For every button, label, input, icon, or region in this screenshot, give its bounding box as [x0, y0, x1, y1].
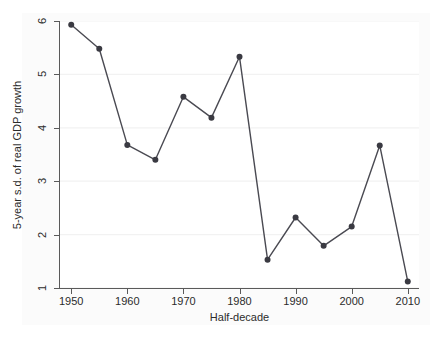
x-tick-label: 1970 — [158, 295, 208, 307]
y-tick-label: 6 — [34, 15, 50, 27]
data-point-marker[interactable] — [349, 224, 355, 230]
y-tick-label: 1 — [34, 282, 50, 294]
x-tick-label: 2010 — [383, 295, 433, 307]
data-point-marker[interactable] — [180, 94, 186, 100]
x-axis-title: Half-decade — [60, 311, 419, 323]
data-point-marker[interactable] — [96, 46, 102, 52]
y-tick-label: 3 — [34, 175, 50, 187]
x-tick-label: 2000 — [327, 295, 377, 307]
y-axis-title-label: 5-year s.d. of real GDP growth — [11, 80, 23, 228]
data-series-line — [71, 25, 408, 282]
data-point-marker[interactable] — [321, 243, 327, 249]
x-tick-label: 1960 — [102, 295, 152, 307]
y-tick-mark — [54, 235, 59, 236]
y-tick-label: 5 — [34, 68, 50, 80]
y-axis-line — [59, 21, 60, 288]
data-point-marker[interactable] — [405, 279, 411, 285]
x-tick-label: 1980 — [215, 295, 265, 307]
chart-figure: 123456 1950196019701980199020002010 5-ye… — [0, 0, 444, 343]
data-point-marker[interactable] — [68, 22, 74, 28]
x-tick-mark — [71, 289, 72, 294]
data-point-marker[interactable] — [208, 115, 214, 121]
x-tick-label: 1990 — [271, 295, 321, 307]
y-tick-label: 4 — [34, 122, 50, 134]
data-point-marker[interactable] — [152, 157, 158, 163]
y-tick-label-text: 6 — [36, 13, 48, 29]
y-tick-label-text: 1 — [36, 280, 48, 296]
data-point-marker[interactable] — [377, 142, 383, 148]
x-tick-mark — [183, 289, 184, 294]
y-tick-label-text: 5 — [36, 66, 48, 82]
x-tick-mark — [127, 289, 128, 294]
y-tick-mark — [54, 288, 59, 289]
x-tick-mark — [240, 289, 241, 294]
data-point-marker[interactable] — [124, 142, 130, 148]
y-tick-label-text: 2 — [36, 227, 48, 243]
y-tick-mark — [54, 181, 59, 182]
data-point-marker[interactable] — [265, 257, 271, 263]
y-tick-mark — [54, 74, 59, 75]
x-tick-mark — [408, 289, 409, 294]
y-tick-mark — [54, 128, 59, 129]
data-point-marker[interactable] — [293, 215, 299, 221]
x-tick-mark — [352, 289, 353, 294]
plot-area — [60, 21, 419, 288]
x-tick-mark — [296, 289, 297, 294]
y-tick-label: 2 — [34, 229, 50, 241]
line-chart-svg — [60, 21, 419, 288]
x-tick-label: 1950 — [46, 295, 96, 307]
data-point-marker[interactable] — [237, 54, 243, 60]
y-axis-title: 5-year s.d. of real GDP growth — [9, 21, 25, 288]
y-tick-mark — [54, 21, 59, 22]
y-tick-label-text: 3 — [36, 173, 48, 189]
y-tick-label-text: 4 — [36, 120, 48, 136]
